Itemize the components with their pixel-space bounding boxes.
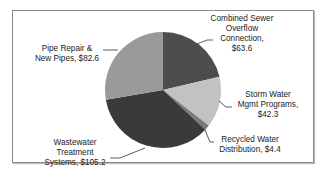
label-recycled-water: Recycled Water Distribution, $4.4 [212,135,288,155]
label-storm-water: Storm Water Mgmt Programs, $42.3 [232,90,304,120]
leader-line-storm [219,101,232,107]
label-combined-sewer: Combined Sewer Overflow Connection, $63.… [200,14,284,54]
leader-line-wastewater [110,148,145,158]
label-pipe-repair: Pipe Repair & New Pipes, $82.6 [30,44,104,64]
pie-slice-pipe-repair-new-pipes [105,32,163,100]
label-wastewater: Wastewater Treatment Systems, $105.2 [38,138,112,168]
